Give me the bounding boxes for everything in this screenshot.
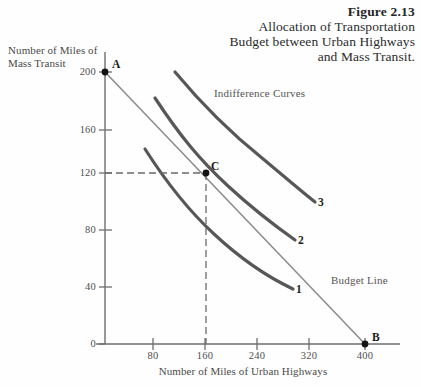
plot-svg [0, 0, 421, 387]
figure-container: Figure 2.13 Allocation of Transportation… [0, 0, 421, 387]
curve-label-1: 1 [296, 283, 302, 295]
point-b-marker [362, 341, 369, 348]
point-label-a: A [112, 58, 120, 70]
point-a-marker [102, 69, 109, 76]
budget-line-annotation: Budget Line [331, 274, 388, 286]
curve-label-2: 2 [298, 234, 304, 246]
curve-label-3: 3 [318, 196, 324, 208]
indifference-curves-annotation: Indifference Curves [214, 87, 305, 99]
point-label-b: B [372, 331, 380, 343]
point-c-marker [203, 170, 210, 177]
budget-line [105, 72, 365, 344]
point-label-c: C [211, 160, 219, 172]
